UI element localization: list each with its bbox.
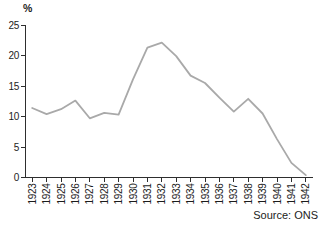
x-tick-label: 1925 — [56, 183, 67, 205]
y-tick-label: 10 — [8, 111, 19, 122]
y-tick-label: 5 — [14, 142, 20, 153]
x-tick-label: 1923 — [27, 183, 38, 205]
unemployment-line-chart: % 05101520251923192419251926192719281929… — [0, 0, 326, 229]
x-tick-label: 1939 — [257, 183, 268, 205]
y-tick-label: 0 — [14, 172, 20, 183]
x-tick-label: 1929 — [113, 183, 124, 205]
x-tick-label: 1924 — [41, 183, 52, 205]
line-chart-svg: 0510152025192319241925192619271928192919… — [0, 0, 326, 229]
y-tick-label: 15 — [8, 81, 19, 92]
x-tick-label: 1935 — [200, 183, 211, 205]
x-tick-label: 1938 — [243, 183, 254, 205]
x-tick-label: 1928 — [99, 183, 110, 205]
y-tick-label: 25 — [8, 20, 19, 31]
y-axis-unit-label: % — [23, 2, 32, 14]
x-tick-label: 1933 — [171, 183, 182, 205]
x-tick-label: 1940 — [272, 183, 283, 205]
x-tick-label: 1934 — [185, 183, 196, 205]
x-tick-label: 1926 — [70, 183, 81, 205]
x-tick-label: 1936 — [214, 183, 225, 205]
x-tick-label: 1932 — [156, 183, 167, 205]
x-tick-label: 1937 — [228, 183, 239, 205]
source-label: Source: ONS — [253, 209, 318, 221]
x-tick-label: 1930 — [128, 183, 139, 205]
data-line-series — [32, 43, 306, 175]
x-tick-label: 1941 — [286, 183, 297, 205]
x-tick-label: 1931 — [142, 183, 153, 205]
x-tick-label: 1942 — [300, 183, 311, 205]
y-tick-label: 20 — [8, 50, 19, 61]
x-tick-label: 1927 — [84, 183, 95, 205]
